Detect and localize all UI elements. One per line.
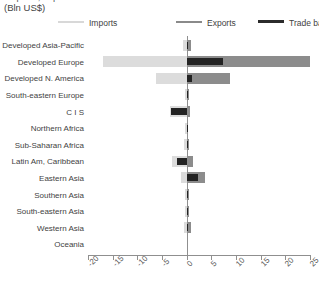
- bar-trade-balance: [187, 224, 189, 231]
- bar-trade-balance: [187, 58, 223, 65]
- legend-swatch-icon: [176, 21, 202, 23]
- chart-row: Developed Europe: [88, 55, 310, 72]
- y-axis-category-label: Developed Europe: [0, 59, 84, 67]
- y-axis-category-label: C I S: [0, 109, 84, 117]
- chart-row: South-eastern Asia: [88, 204, 310, 221]
- x-axis-tick-label: -5: [160, 257, 171, 268]
- y-axis-category-label: South-eastern Europe: [0, 92, 84, 100]
- chart-legend: ImportsExportsTrade balance: [58, 13, 316, 25]
- chart-row: Developed N. America: [88, 71, 310, 88]
- chart-row: Latin Am, Caribbean: [88, 154, 310, 171]
- legend-swatch-icon: [58, 21, 84, 23]
- legend-label: Imports: [89, 18, 117, 28]
- y-axis-category-label: Eastern Asia: [0, 175, 84, 183]
- y-axis-category-label: Latin Am, Caribbean: [0, 158, 84, 166]
- x-axis-tick-label: 0: [185, 259, 195, 269]
- legend-label: Trade balance: [289, 18, 319, 28]
- chart-row: Developed Asia-Pacific: [88, 38, 310, 55]
- y-axis-category-label: Sub-Saharan Africa: [0, 142, 84, 150]
- bar-imports: [156, 73, 187, 84]
- bar-exports: [187, 73, 230, 84]
- chart-row: Western Asia: [88, 221, 310, 238]
- legend-item-imports[interactable]: Imports: [58, 13, 117, 25]
- y-axis-category-label: Western Asia: [0, 225, 84, 233]
- bar-imports: [103, 56, 187, 67]
- chart-row: Northern Africa: [88, 121, 310, 138]
- bar-trade-balance: [187, 91, 189, 98]
- y-axis-category-label: Developed Asia-Pacific: [0, 42, 84, 50]
- bar-trade-balance: [171, 108, 186, 115]
- legend-label: Exports: [207, 18, 236, 28]
- legend-item-exports[interactable]: Exports: [176, 13, 236, 25]
- chart-title: Imports, exports and trade balance: [6, 0, 306, 3]
- bar-trade-balance: [187, 42, 189, 49]
- x-axis-tick-label: 5: [209, 259, 219, 269]
- legend-swatch-icon: [258, 20, 284, 23]
- bar-trade-balance: [177, 158, 187, 165]
- chart-row: Oceania: [88, 237, 310, 254]
- y-axis-category-label: Oceania: [0, 241, 84, 249]
- y-axis-category-label: Developed N. America: [0, 75, 84, 83]
- chart-row: Southern Asia: [88, 187, 310, 204]
- bar-trade-balance: [187, 141, 189, 148]
- y-axis-category-label: South-eastern Asia: [0, 208, 84, 216]
- chart-subtitle-units: (Bln US$): [4, 2, 45, 13]
- y-axis-category-label: Southern Asia: [0, 192, 84, 200]
- chart-row: Sub-Saharan Africa: [88, 138, 310, 155]
- plot-area: Developed Asia-PacificDeveloped EuropeDe…: [88, 36, 310, 254]
- chart-row: C I S: [88, 104, 310, 121]
- bar-exports: [187, 156, 193, 167]
- bar-trade-balance: [187, 75, 192, 82]
- bar-trade-balance: [187, 125, 189, 132]
- bar-trade-balance: [187, 208, 189, 215]
- legend-item-trade-balance[interactable]: Trade balance: [258, 13, 319, 25]
- bar-trade-balance: [187, 174, 199, 181]
- bar-exports: [187, 106, 190, 117]
- chart-row: South-eastern Europe: [88, 88, 310, 105]
- chart-root: Imports, exports and trade balance (Bln …: [0, 0, 319, 281]
- chart-row: Eastern Asia: [88, 171, 310, 188]
- y-axis-category-label: Northern Africa: [0, 125, 84, 133]
- bar-trade-balance: [187, 191, 189, 198]
